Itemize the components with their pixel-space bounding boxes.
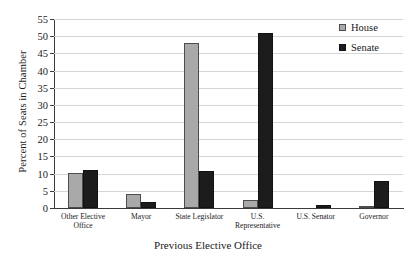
x-tick-label-line: State Legislator — [170, 212, 228, 221]
bar-senate — [141, 202, 156, 208]
legend-item-house[interactable]: House — [339, 17, 379, 37]
x-tick-label-line: Other Elective — [54, 212, 112, 221]
y-tick-label: 15 — [38, 151, 49, 162]
y-tick-label: 25 — [38, 117, 49, 128]
y-axis-title: Percent of Seats in Chamber — [17, 17, 28, 207]
legend-item-senate[interactable]: Senate — [339, 37, 379, 57]
x-tick-label: U.S.Representative — [229, 212, 287, 231]
y-tick-label: 45 — [38, 48, 49, 59]
bar-senate — [258, 33, 273, 208]
x-tick-label: U.S. Senator — [287, 212, 345, 221]
chart-legend: HouseSenate — [339, 17, 379, 57]
bar-house — [68, 173, 83, 208]
bar-house — [359, 206, 374, 208]
y-tick-label: 30 — [38, 99, 49, 110]
legend-label: Senate — [351, 42, 379, 53]
x-tick-label: Governor — [345, 212, 403, 221]
y-tick-label: 55 — [38, 14, 49, 25]
y-tick-label: 50 — [38, 31, 49, 42]
y-tick-label: 40 — [38, 65, 49, 76]
y-tick-label: 10 — [38, 168, 49, 179]
legend-swatch-icon — [339, 24, 346, 31]
y-tick-label: 0 — [43, 203, 48, 214]
x-tick-label-line: Office — [54, 221, 112, 230]
y-tick-label: 5 — [43, 185, 48, 196]
x-tick-label: State Legislator — [170, 212, 228, 221]
x-tick-label-line: U.S. — [229, 212, 287, 221]
x-axis-line — [54, 208, 404, 209]
bar-house — [243, 200, 258, 208]
y-tick-label: 35 — [38, 82, 49, 93]
legend-label: House — [351, 22, 378, 33]
bar-group — [229, 19, 287, 208]
bar-chart: Percent of Seats in Chamber 051015202530… — [0, 0, 416, 259]
x-tick-label-line: Mayor — [112, 212, 170, 221]
x-tick-label-line: U.S. Senator — [287, 212, 345, 221]
y-tick-label: 20 — [38, 134, 49, 145]
x-tick-label: Other ElectiveOffice — [54, 212, 112, 231]
bar-group — [287, 19, 345, 208]
bar-senate — [316, 205, 331, 208]
bar-group — [54, 19, 112, 208]
tick-mark — [50, 208, 54, 209]
x-tick-label-line: Governor — [345, 212, 403, 221]
legend-swatch-icon — [339, 44, 346, 51]
bar-senate — [199, 171, 214, 208]
x-tick-label: Mayor — [112, 212, 170, 221]
bar-house — [126, 194, 141, 208]
bar-senate — [83, 170, 98, 208]
bar-house — [184, 43, 199, 208]
bar-group — [170, 19, 228, 208]
bar-group — [112, 19, 170, 208]
x-axis-title: Previous Elective Office — [0, 239, 416, 251]
bar-senate — [374, 181, 389, 208]
x-tick-label-line: Representative — [229, 221, 287, 230]
